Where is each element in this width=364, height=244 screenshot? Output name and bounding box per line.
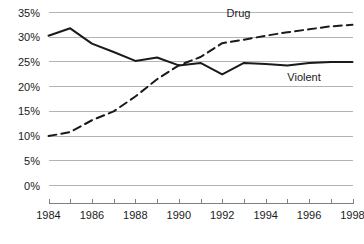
gridlines (49, 13, 353, 186)
chart-container: 0%5%10%15%20%25%30%35% 19841986198819901… (0, 0, 364, 244)
y-tick-label-5: 5% (24, 155, 40, 167)
x-tick-label-1998: 1998 (340, 209, 364, 221)
y-axis-tick-labels: 0%5%10%15%20%25%30%35% (18, 7, 40, 192)
x-tick-label-1988: 1988 (123, 209, 147, 221)
series-annotations: DrugViolent (227, 7, 321, 82)
x-tick-label-1990: 1990 (167, 209, 191, 221)
x-tick-label-1986: 1986 (80, 209, 104, 221)
y-tick-label-0: 0% (24, 180, 40, 192)
y-tick-label-25: 25% (18, 56, 40, 68)
x-tick-label-1984: 1984 (36, 209, 60, 221)
x-axis-tick-labels: 19841986198819901992199419961998 (36, 209, 364, 221)
x-tick-label-1996: 1996 (297, 209, 321, 221)
line-chart: 0%5%10%15%20%25%30%35% 19841986198819901… (0, 0, 364, 244)
y-tick-label-20: 20% (18, 81, 40, 93)
x-tick-label-1994: 1994 (253, 209, 277, 221)
y-tick-label-35: 35% (18, 7, 40, 19)
series-label-violent: Violent (287, 71, 320, 83)
axis-ticks (50, 199, 354, 204)
y-tick-label-15: 15% (18, 105, 40, 117)
series-line-violent (49, 28, 353, 74)
x-tick-label-1992: 1992 (210, 209, 234, 221)
series-label-drug: Drug (227, 7, 251, 19)
y-tick-label-30: 30% (18, 31, 40, 43)
y-tick-label-10: 10% (18, 130, 40, 142)
